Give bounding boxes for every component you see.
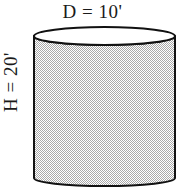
cylinder-body <box>34 36 175 186</box>
cylinder-top-face <box>34 27 175 45</box>
cylinder-diagram-canvas: D = 10' H = 20' <box>0 0 185 192</box>
cylinder-shape <box>0 0 185 192</box>
